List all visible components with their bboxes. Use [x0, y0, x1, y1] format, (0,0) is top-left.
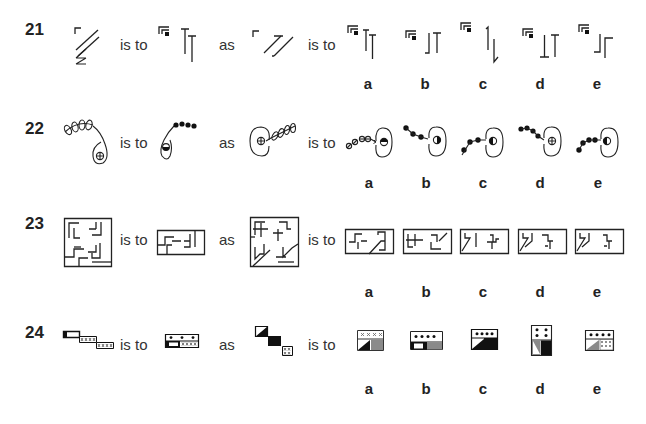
figure-21-B	[158, 26, 204, 62]
option-24-c[interactable]	[471, 329, 499, 351]
figure-21-C	[250, 28, 296, 58]
option-label-c: c	[473, 75, 493, 92]
is-to-label: is to	[120, 36, 148, 53]
option-22-c[interactable]	[460, 125, 508, 161]
option-label-a: a	[359, 283, 379, 300]
figure-24-A	[63, 331, 115, 349]
option-label-d: d	[530, 283, 550, 300]
figure-23-B	[157, 230, 205, 256]
figure-21-A	[72, 25, 102, 65]
option-label-a: a	[359, 380, 379, 397]
is-to-label: is to	[308, 36, 336, 53]
figure-23-A	[64, 218, 112, 267]
option-23-c[interactable]	[460, 229, 509, 255]
option-24-a[interactable]	[357, 330, 385, 352]
option-label-e: e	[587, 75, 607, 92]
is-to-label: is to	[308, 231, 336, 248]
as-label: as	[219, 36, 235, 53]
as-label: as	[219, 336, 235, 353]
option-label-d: d	[530, 174, 550, 191]
option-21-c[interactable]	[460, 22, 504, 64]
option-label-b: b	[416, 380, 436, 397]
option-23-d[interactable]	[518, 229, 567, 255]
option-21-d[interactable]	[522, 28, 562, 60]
option-label-d: d	[530, 75, 550, 92]
figure-23-C	[250, 217, 299, 267]
option-label-c: c	[473, 174, 493, 191]
figure-22-C	[249, 124, 301, 160]
option-24-b[interactable]	[410, 331, 444, 351]
option-label-a: a	[358, 75, 378, 92]
question-number: 24	[25, 323, 44, 343]
question-number: 23	[25, 214, 44, 234]
option-label-d: d	[530, 380, 550, 397]
is-to-label: is to	[308, 134, 336, 151]
figure-24-B	[165, 334, 200, 348]
option-label-e: e	[587, 380, 607, 397]
option-21-a[interactable]	[347, 25, 383, 61]
option-22-d[interactable]	[518, 124, 566, 160]
option-label-b: b	[416, 283, 436, 300]
question-number: 22	[25, 119, 44, 139]
option-21-b[interactable]	[405, 30, 445, 60]
figure-24-C	[255, 326, 297, 356]
as-label: as	[219, 231, 235, 248]
is-to-label: is to	[120, 336, 148, 353]
option-22-e[interactable]	[575, 125, 623, 161]
question-number: 21	[25, 20, 44, 40]
option-label-c: c	[473, 380, 493, 397]
option-23-e[interactable]	[575, 229, 624, 255]
figure-22-A	[63, 120, 113, 165]
option-23-a[interactable]	[345, 229, 394, 255]
is-to-label: is to	[308, 336, 336, 353]
is-to-label: is to	[120, 231, 148, 248]
figure-22-B	[156, 122, 206, 162]
option-label-e: e	[587, 283, 607, 300]
option-22-b[interactable]	[403, 124, 451, 160]
is-to-label: is to	[120, 134, 148, 151]
option-label-e: e	[588, 174, 608, 191]
option-label-b: b	[415, 75, 435, 92]
option-23-b[interactable]	[403, 229, 452, 255]
option-24-d[interactable]	[531, 325, 553, 357]
option-21-e[interactable]	[578, 24, 622, 60]
as-label: as	[219, 134, 235, 151]
option-label-a: a	[359, 174, 379, 191]
option-label-b: b	[416, 174, 436, 191]
option-label-c: c	[473, 283, 493, 300]
option-24-e[interactable]	[585, 330, 615, 352]
option-22-a[interactable]	[345, 125, 395, 159]
